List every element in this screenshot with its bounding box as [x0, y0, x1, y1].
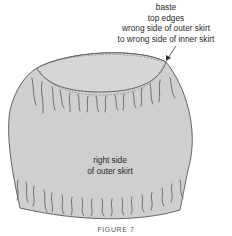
figure-caption: FIGURE 7	[80, 226, 152, 233]
label-line: of outer skirt	[60, 166, 160, 177]
callout-line: to wrong side of inner skirt	[100, 34, 232, 45]
callout-line: top edges	[100, 13, 232, 24]
label-line: right side	[60, 155, 160, 166]
outer-skirt-label: right side of outer skirt	[60, 155, 160, 176]
callout-arrow	[168, 46, 176, 58]
callout-text: baste top edges wrong side of outer skir…	[100, 2, 232, 44]
callout-line: baste	[100, 2, 232, 13]
callout-line: wrong side of outer skirt	[100, 23, 232, 34]
arrow-head	[166, 55, 171, 61]
